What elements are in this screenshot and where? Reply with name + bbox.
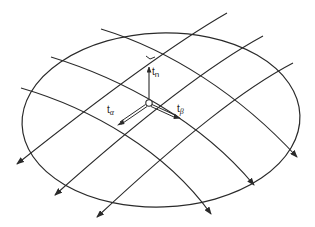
surface-coordinate-diagram: tn tα tβ: [0, 0, 315, 227]
surface-point-node: [146, 100, 152, 106]
t-alpha-label: tα: [107, 104, 115, 117]
t-beta-label: tβ: [177, 103, 184, 116]
alpha-line-2: [55, 36, 263, 195]
t-alpha-vector-arrow: [117, 105, 147, 126]
alpha-coordinate-lines: [17, 13, 293, 217]
t-n-label: tn: [152, 66, 159, 79]
right-angle-marker: [146, 56, 155, 59]
